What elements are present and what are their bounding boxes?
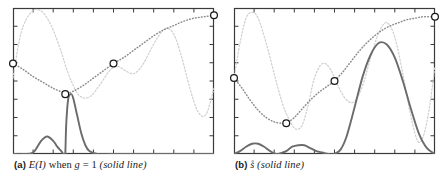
caption-a-paren: (solid line) xyxy=(100,159,147,170)
series-dotted-posterior-mean xyxy=(13,15,214,94)
marker-observation-3[interactable] xyxy=(110,60,117,67)
marker-observation-1[interactable] xyxy=(10,60,17,67)
series-group-a xyxy=(13,9,214,156)
series-solid-acquisition xyxy=(234,42,435,154)
caption-a-eq: = 1 xyxy=(83,159,97,170)
caption-b-paren: (solid line) xyxy=(257,159,304,170)
caption-a-math: E(I) xyxy=(29,159,46,170)
marker-observation-2[interactable] xyxy=(283,120,290,127)
chart-a-canvas xyxy=(10,8,218,156)
marker-observation-4[interactable] xyxy=(211,12,218,19)
marker-observation-4[interactable] xyxy=(432,13,439,20)
plot-area-b xyxy=(234,8,435,154)
subfigure-a: (a) E(I) when g = 1 (solid line) xyxy=(0,0,221,181)
caption-b-label: (b) xyxy=(235,159,247,170)
chart-b-canvas xyxy=(231,8,439,154)
plot-frame-a xyxy=(14,9,214,154)
plot-area-a xyxy=(13,8,214,154)
series-dotted-posterior-mean xyxy=(234,17,435,124)
caption-a-math-2: g xyxy=(75,159,80,170)
caption-b: (b) s̊ (solid line) xyxy=(235,158,304,172)
marker-group-b xyxy=(231,13,439,126)
subfigure-b: (b) s̊ (solid line) xyxy=(221,0,443,181)
marker-group-a xyxy=(10,12,218,98)
figure-root: (a) E(I) when g = 1 (solid line) (b) s̊ … xyxy=(0,0,443,181)
caption-a: (a) E(I) when g = 1 (solid line) xyxy=(14,158,147,172)
caption-a-label: (a) xyxy=(14,159,26,170)
series-solid-acquisition xyxy=(13,94,214,156)
caption-b-math: s̊ xyxy=(250,159,254,170)
marker-observation-1[interactable] xyxy=(231,75,238,82)
chart-a-svg xyxy=(13,8,214,154)
marker-observation-3[interactable] xyxy=(331,78,338,85)
tick-group-a xyxy=(13,8,214,154)
chart-b-svg xyxy=(234,8,435,154)
caption-a-when: when xyxy=(49,159,72,170)
marker-observation-2[interactable] xyxy=(62,91,69,98)
